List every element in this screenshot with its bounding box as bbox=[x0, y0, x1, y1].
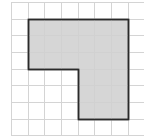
grid-diagram bbox=[0, 0, 144, 136]
grid-canvas bbox=[0, 0, 144, 136]
